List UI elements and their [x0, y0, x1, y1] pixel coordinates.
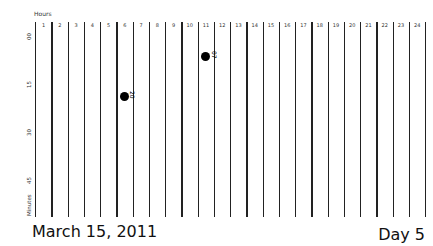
hour-gridline — [279, 22, 280, 217]
date-label: March 15, 2011 — [32, 222, 157, 241]
hour-gridline — [149, 22, 150, 217]
data-point — [201, 52, 210, 61]
hour-tick-label: 20 — [345, 22, 359, 28]
hours-title: Hours — [34, 10, 52, 17]
data-point — [120, 92, 129, 101]
hour-gridline — [116, 22, 117, 217]
day-label: Day 5 — [378, 225, 425, 244]
hour-tick-label: 11 — [199, 22, 213, 28]
minute-tick-label: 15 — [26, 81, 32, 88]
hour-tick-label: 17 — [297, 22, 311, 28]
hour-tick-label: 13 — [232, 22, 246, 28]
hour-gridline — [344, 22, 345, 217]
hour-gridline — [51, 22, 52, 217]
hour-tick-label: 23 — [394, 22, 408, 28]
hour-tick-label: 16 — [280, 22, 294, 28]
data-point-label: 20 — [129, 91, 136, 99]
hour-tick-label: 21 — [362, 22, 376, 28]
hour-gridline — [133, 22, 134, 217]
hour-gridline — [425, 22, 426, 217]
hour-gridline — [328, 22, 329, 217]
hour-gridline — [35, 22, 36, 217]
hour-gridline — [68, 22, 69, 217]
hour-tick-label: 6 — [118, 22, 132, 28]
minute-tick-label: 00 — [26, 33, 32, 40]
hour-tick-label: 1 — [37, 22, 51, 28]
hour-tick-label: 9 — [167, 22, 181, 28]
hour-tick-label: 10 — [183, 22, 197, 28]
hour-gridline — [230, 22, 231, 217]
hour-gridline — [198, 22, 199, 217]
minute-tick-label: 30 — [26, 129, 32, 136]
hour-gridline — [295, 22, 296, 217]
hour-gridline — [84, 22, 85, 217]
hour-gridline — [311, 22, 312, 217]
hour-tick-label: 8 — [150, 22, 164, 28]
hour-tick-label: 12 — [215, 22, 229, 28]
hour-tick-label: 19 — [329, 22, 343, 28]
hour-gridline — [409, 22, 410, 217]
hour-tick-label: 22 — [378, 22, 392, 28]
hour-tick-label: 14 — [248, 22, 262, 28]
hour-gridline — [165, 22, 166, 217]
hour-tick-label: 5 — [102, 22, 116, 28]
hour-tick-label: 3 — [69, 22, 83, 28]
hour-tick-label: 7 — [134, 22, 148, 28]
hour-gridline — [100, 22, 101, 217]
hour-gridline — [376, 22, 377, 217]
hour-tick-label: 4 — [85, 22, 99, 28]
hour-tick-label: 2 — [53, 22, 67, 28]
minute-tick-label: 45 — [26, 177, 32, 184]
hour-gridline — [393, 22, 394, 217]
minute-tick-label: Minutes — [26, 194, 32, 216]
hour-gridline — [360, 22, 361, 217]
hour-gridline — [263, 22, 264, 217]
hour-gridline — [181, 22, 182, 217]
hour-gridline — [246, 22, 247, 217]
hour-tick-label: 18 — [313, 22, 327, 28]
data-point-label: 07 — [211, 51, 218, 59]
hour-tick-label: 24 — [410, 22, 424, 28]
hour-tick-label: 15 — [264, 22, 278, 28]
